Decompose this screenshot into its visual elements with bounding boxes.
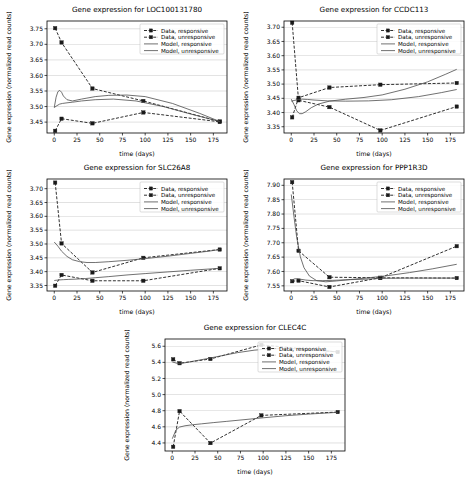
x-tick-label: 75 [119, 294, 127, 301]
series-model-responsive [291, 278, 456, 281]
y-tick-label: 3.60 [267, 52, 281, 59]
y-tick-label: 3.40 [30, 268, 44, 275]
data-point [455, 105, 458, 108]
data-point [60, 273, 63, 276]
y-tick-label: 7.55 [267, 282, 281, 289]
y-tick-label: 5.2 [151, 375, 161, 382]
y-tick-label: 5.4 [151, 358, 161, 365]
x-axis: 0255075100125150175 [52, 291, 219, 301]
y-tick-label: 3.35 [267, 123, 281, 130]
panel-title: Gene expression for CCDC113 [320, 5, 429, 14]
x-tick-label: 100 [257, 454, 269, 461]
x-tick-label: 50 [214, 454, 222, 461]
legend: Data, responsiveData, unresponsiveModel,… [377, 24, 461, 55]
x-tick-label: 50 [96, 294, 104, 301]
series-model-responsive [291, 90, 456, 102]
data-point [142, 111, 145, 114]
legend: Data, responsiveData, unresponsiveModel,… [140, 24, 224, 55]
x-tick-label: 100 [139, 294, 151, 301]
chart-panel-slc26a8: Gene expression for SLC26A80255075100125… [0, 158, 236, 318]
chart-panel-ppp1r3d: Gene expression for PPP1R3D0255075100125… [237, 158, 473, 318]
data-point [290, 21, 293, 24]
y-axis: 3.453.503.553.603.653.703.75 [30, 25, 47, 125]
x-tick-label: 150 [185, 136, 197, 143]
legend-label: Model, unresponsive [398, 48, 456, 55]
x-tick-label: 0 [52, 294, 56, 301]
x-axis-label: time (days) [237, 468, 272, 476]
y-tick-label: 3.50 [30, 103, 44, 110]
x-tick-label: 50 [333, 294, 341, 301]
y-tick-label: 3.70 [30, 185, 44, 192]
y-tick-label: 4.6 [151, 423, 161, 430]
y-axis: 7.557.607.657.707.757.807.857.90 [267, 181, 284, 289]
x-tick-label: 25 [73, 294, 81, 301]
x-axis: 0255075100125150175 [170, 451, 337, 461]
y-tick-label: 3.70 [267, 23, 281, 30]
x-tick-label: 175 [326, 454, 338, 461]
x-tick-label: 125 [399, 294, 411, 301]
x-tick-label: 25 [73, 136, 81, 143]
y-tick-label: 3.35 [30, 282, 44, 289]
y-tick-label: 7.60 [267, 268, 281, 275]
y-axis: 3.353.403.453.503.553.603.653.70 [30, 185, 47, 289]
y-axis-label: Gene expression (normalized read counts) [242, 169, 250, 300]
x-axis-label: time (days) [119, 308, 154, 316]
data-point [290, 180, 293, 183]
data-point [455, 81, 458, 84]
panel-title: Gene expression for PPP1R3D [320, 163, 428, 172]
series-model-responsive [54, 268, 219, 280]
y-tick-label: 7.85 [267, 196, 281, 203]
x-tick-label: 150 [422, 136, 434, 143]
data-point [328, 105, 331, 108]
x-tick-label: 50 [333, 136, 341, 143]
series-model-responsive [172, 412, 337, 438]
data-point [455, 245, 458, 248]
x-tick-label: 100 [376, 136, 388, 143]
legend-label: Model, unresponsive [161, 48, 219, 55]
x-tick-label: 125 [162, 294, 174, 301]
data-point [53, 284, 56, 287]
x-tick-label: 25 [310, 294, 318, 301]
x-tick-label: 75 [119, 136, 127, 143]
x-tick-label: 0 [52, 136, 56, 143]
chart-panel-loc100131780: Gene expression for LOC10013178002550751… [0, 0, 236, 160]
data-point [328, 276, 331, 279]
data-point [379, 83, 382, 86]
data-point [91, 279, 94, 282]
y-tick-label: 7.65 [267, 253, 281, 260]
x-tick-label: 125 [280, 454, 292, 461]
y-axis: 4.44.64.85.05.25.45.6 [151, 342, 165, 446]
data-point [290, 116, 293, 119]
data-point [379, 129, 382, 132]
y-tick-label: 7.75 [267, 224, 281, 231]
data-point [260, 414, 263, 417]
y-axis-label: Gene expression (normalized read counts) [123, 329, 131, 460]
y-tick-label: 3.55 [267, 66, 281, 73]
panel-title: Gene expression for LOC100131780 [72, 5, 202, 14]
x-tick-label: 0 [170, 454, 174, 461]
data-point [91, 271, 94, 274]
y-tick-label: 3.60 [30, 72, 44, 79]
data-point [53, 26, 56, 29]
data-point [53, 181, 56, 184]
x-tick-label: 0 [289, 294, 293, 301]
x-tick-label: 25 [310, 136, 318, 143]
data-point [171, 445, 174, 448]
x-tick-label: 50 [96, 136, 104, 143]
y-axis-label: Gene expression (normalized read counts) [5, 11, 13, 142]
y-tick-label: 3.50 [30, 240, 44, 247]
data-point [328, 285, 331, 288]
data-point [171, 358, 174, 361]
x-axis: 0255075100125150175 [289, 133, 456, 143]
y-tick-label: 3.65 [30, 199, 44, 206]
x-axis-label: time (days) [119, 150, 154, 158]
y-tick-label: 3.60 [30, 212, 44, 219]
y-tick-label: 3.50 [267, 80, 281, 87]
series-data-responsive [171, 409, 339, 448]
legend: Data, responsiveData, unresponsiveModel,… [140, 182, 224, 213]
data-point [91, 87, 94, 90]
x-tick-label: 25 [191, 454, 199, 461]
y-tick-label: 3.40 [267, 109, 281, 116]
y-tick-label: 7.80 [267, 210, 281, 217]
y-axis-label: Gene expression (normalized read counts) [242, 11, 250, 142]
